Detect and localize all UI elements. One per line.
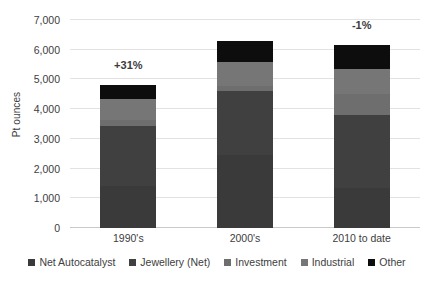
bar-stack[interactable] [334, 45, 390, 228]
bar-segment-jewellery-net[interactable] [334, 115, 390, 188]
bar-segment-jewellery-net[interactable] [100, 126, 156, 187]
bar-stack[interactable] [217, 41, 273, 228]
legend-item[interactable]: Investment [224, 256, 286, 268]
x-axis-tick-label: 2000's [230, 232, 261, 244]
legend-swatch-icon [368, 259, 375, 266]
legend-item[interactable]: Industrial [301, 256, 355, 268]
bar-segment-jewellery-net[interactable] [217, 91, 273, 155]
y-axis-tick-label: 0 [54, 222, 60, 234]
y-axis-tick-label: 5,000 [34, 73, 60, 85]
y-axis-tick-labels: 01,0002,0003,0004,0005,0006,0007,000 [0, 20, 66, 228]
bar-segment-industrial[interactable] [217, 62, 273, 86]
legend-label: Investment [235, 256, 286, 268]
bar-annotation: -1% [352, 19, 372, 31]
y-axis-tick-label: 1,000 [34, 192, 60, 204]
legend-swatch-icon [224, 259, 231, 266]
legend-item[interactable]: Jewellery (Net) [129, 256, 210, 268]
legend-item[interactable]: Net Autocatalyst [28, 256, 115, 268]
x-axis-tick-label: 1990's [113, 232, 144, 244]
bar-segment-other[interactable] [217, 41, 273, 62]
chart-legend: Net AutocatalystJewellery (Net)Investmen… [0, 256, 434, 268]
stacked-bar-chart: Pt ounces 01,0002,0003,0004,0005,0006,00… [0, 0, 434, 287]
bar-segment-other[interactable] [334, 45, 390, 69]
y-axis-tick-label: 4,000 [34, 103, 60, 115]
y-axis-tick-label: 6,000 [34, 44, 60, 56]
legend-label: Jewellery (Net) [140, 256, 210, 268]
bar-segment-investment[interactable] [334, 94, 390, 115]
bar-stack[interactable] [100, 85, 156, 228]
bar-segment-net-autocatalyst[interactable] [217, 155, 273, 228]
legend-swatch-icon [28, 259, 35, 266]
bar-segment-industrial[interactable] [334, 69, 390, 94]
y-axis-tick-label: 7,000 [34, 14, 60, 26]
bar-segment-net-autocatalyst[interactable] [100, 186, 156, 228]
bar-segment-other[interactable] [100, 85, 156, 98]
x-axis-tick-label: 2010 to date [332, 232, 390, 244]
legend-label: Net Autocatalyst [39, 256, 115, 268]
bar-series-container: +31%-1% [70, 20, 420, 228]
legend-label: Other [379, 256, 405, 268]
legend-swatch-icon [129, 259, 136, 266]
legend-swatch-icon [301, 259, 308, 266]
plot-area: +31%-1% [70, 20, 420, 228]
y-axis-tick-label: 3,000 [34, 133, 60, 145]
x-axis-tick-labels: 1990's2000's2010 to date [70, 230, 420, 248]
legend-label: Industrial [312, 256, 355, 268]
bar-segment-net-autocatalyst[interactable] [334, 188, 390, 228]
legend-item[interactable]: Other [368, 256, 405, 268]
bar-segment-industrial[interactable] [100, 99, 156, 120]
y-axis-tick-label: 2,000 [34, 163, 60, 175]
bar-annotation: +31% [114, 59, 142, 71]
